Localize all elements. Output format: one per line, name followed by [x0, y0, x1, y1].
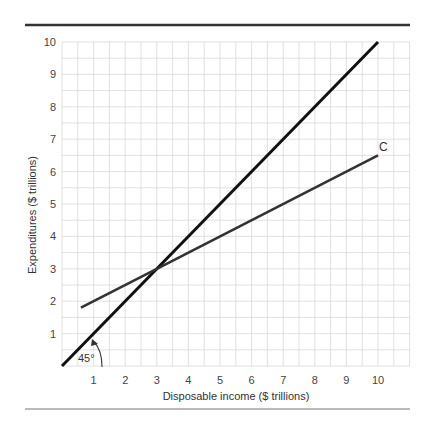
x-tick-label: 1: [91, 374, 97, 386]
y-tick-label: 7: [50, 133, 56, 145]
x-tick-label: 8: [312, 374, 318, 386]
y-tick-label: 4: [50, 230, 56, 242]
series-label-c: C: [379, 140, 388, 154]
x-tick-label: 5: [217, 374, 223, 386]
y-tick-label: 2: [50, 295, 56, 307]
y-axis-ticks: 12345678910: [44, 36, 56, 340]
x-tick-label: 6: [249, 374, 255, 386]
y-tick-label: 6: [50, 166, 56, 178]
angle-arc: [94, 342, 102, 367]
angle-label: 45°: [78, 352, 95, 364]
y-tick-label: 1: [50, 328, 56, 340]
y-tick-label: 5: [50, 198, 56, 210]
x-tick-label: 7: [280, 374, 286, 386]
x-tick-label: 3: [154, 374, 160, 386]
y-axis-label: Expenditures ($ trillions): [26, 156, 38, 274]
y-tick-label: 3: [50, 263, 56, 275]
y-tick-label: 10: [44, 36, 56, 48]
angle-annotation: 45°: [78, 339, 102, 367]
consumption-chart: 12345678910 12345678910 Disposable incom…: [0, 0, 433, 425]
x-tick-label: 2: [122, 374, 128, 386]
grid: [62, 42, 410, 366]
y-tick-label: 9: [50, 68, 56, 80]
x-tick-label: 4: [185, 374, 191, 386]
x-axis-ticks: 12345678910: [91, 374, 385, 386]
x-tick-label: 9: [343, 374, 349, 386]
x-tick-label: 10: [372, 374, 384, 386]
y-tick-label: 8: [50, 101, 56, 113]
x-axis-label: Disposable income ($ trillions): [163, 390, 310, 402]
